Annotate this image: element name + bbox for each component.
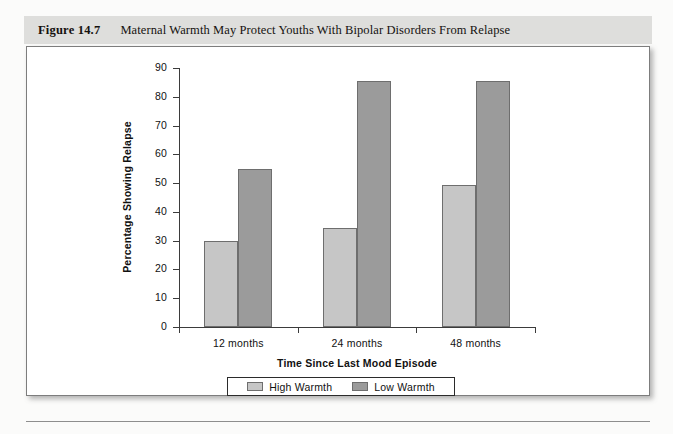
y-axis-title: Percentage Showing Relapse — [121, 121, 133, 273]
x-axis-category-label: 24 months — [298, 337, 417, 349]
y-axis-line — [179, 68, 180, 328]
x-axis-tick — [298, 327, 299, 333]
x-axis-title: Time Since Last Mood Episode — [179, 357, 535, 369]
legend-swatch-high-warmth — [247, 382, 263, 391]
bar-high-warmth-24-months — [323, 228, 357, 327]
y-axis-tick-label: 10 — [141, 291, 167, 303]
chart-panel: Percentage Showing Relapse Time Since La… — [26, 46, 650, 396]
y-axis-tick — [173, 68, 179, 69]
y-axis-tick-label: 90 — [141, 61, 167, 73]
y-axis-tick-label: 50 — [141, 176, 167, 188]
bar-low-warmth-24-months — [357, 81, 391, 327]
y-axis-tick — [173, 183, 179, 184]
figure-caption-band: Figure 14.7 Maternal Warmth May Protect … — [24, 16, 652, 44]
y-axis-tick — [173, 97, 179, 98]
x-axis-category-label: 48 months — [416, 337, 535, 349]
y-axis-tick — [173, 241, 179, 242]
figure-number: Figure 14.7 — [38, 23, 100, 38]
y-axis-tick-label: 60 — [141, 147, 167, 159]
y-axis-tick-label: 40 — [141, 205, 167, 217]
y-axis-tick — [173, 154, 179, 155]
y-axis-tick-label: 0 — [141, 320, 167, 332]
x-axis-category-label: 12 months — [179, 337, 298, 349]
legend-swatch-low-warmth — [352, 382, 368, 391]
bar-high-warmth-48-months — [442, 185, 476, 327]
figure-title: Maternal Warmth May Protect Youths With … — [120, 23, 510, 38]
page-bottom-rule — [26, 421, 650, 422]
y-axis-tick-label: 80 — [141, 90, 167, 102]
chart-legend: High Warmth Low Warmth — [227, 377, 455, 396]
x-axis-tick — [179, 327, 180, 333]
x-axis-line — [179, 327, 535, 328]
y-axis-tick-label: 20 — [141, 262, 167, 274]
x-axis-tick — [535, 327, 536, 333]
x-axis-tick — [416, 327, 417, 333]
bar-chart-plot: Percentage Showing Relapse Time Since La… — [27, 47, 651, 397]
bar-low-warmth-48-months — [476, 81, 510, 327]
legend-label-low-warmth: Low Warmth — [374, 381, 435, 393]
bar-low-warmth-12-months — [238, 169, 272, 327]
legend-label-high-warmth: High Warmth — [269, 381, 332, 393]
y-axis-tick-label: 70 — [141, 119, 167, 131]
legend-entry-low-warmth: Low Warmth — [352, 381, 435, 393]
y-axis-tick — [173, 212, 179, 213]
bar-high-warmth-12-months — [204, 241, 238, 327]
y-axis-tick — [173, 298, 179, 299]
y-axis-tick-label: 30 — [141, 234, 167, 246]
y-axis-tick — [173, 126, 179, 127]
y-axis-tick — [173, 269, 179, 270]
legend-entry-high-warmth: High Warmth — [247, 381, 332, 393]
